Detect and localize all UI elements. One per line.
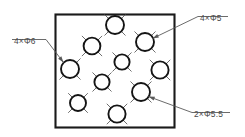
- hole-10: [108, 105, 125, 122]
- hole-8: [132, 83, 150, 101]
- hole-4: [61, 60, 79, 78]
- hole-3: [136, 33, 154, 51]
- callout-2x-d55-label: 2×Φ5.5: [194, 109, 223, 119]
- hole-5: [114, 54, 129, 69]
- hole-9: [70, 95, 86, 111]
- hole-7: [94, 74, 109, 89]
- hole-1: [106, 16, 124, 34]
- hole-2: [84, 38, 101, 55]
- callout-4x-d6-label: 4×Φ6: [14, 36, 36, 46]
- technical-drawing: 4×Φ64×Φ52×Φ5.5: [0, 0, 245, 137]
- drawing-canvas: 4×Φ64×Φ52×Φ5.5: [0, 0, 245, 137]
- hole-6: [151, 61, 168, 78]
- callout-4x-d5-label: 4×Φ5: [200, 13, 222, 23]
